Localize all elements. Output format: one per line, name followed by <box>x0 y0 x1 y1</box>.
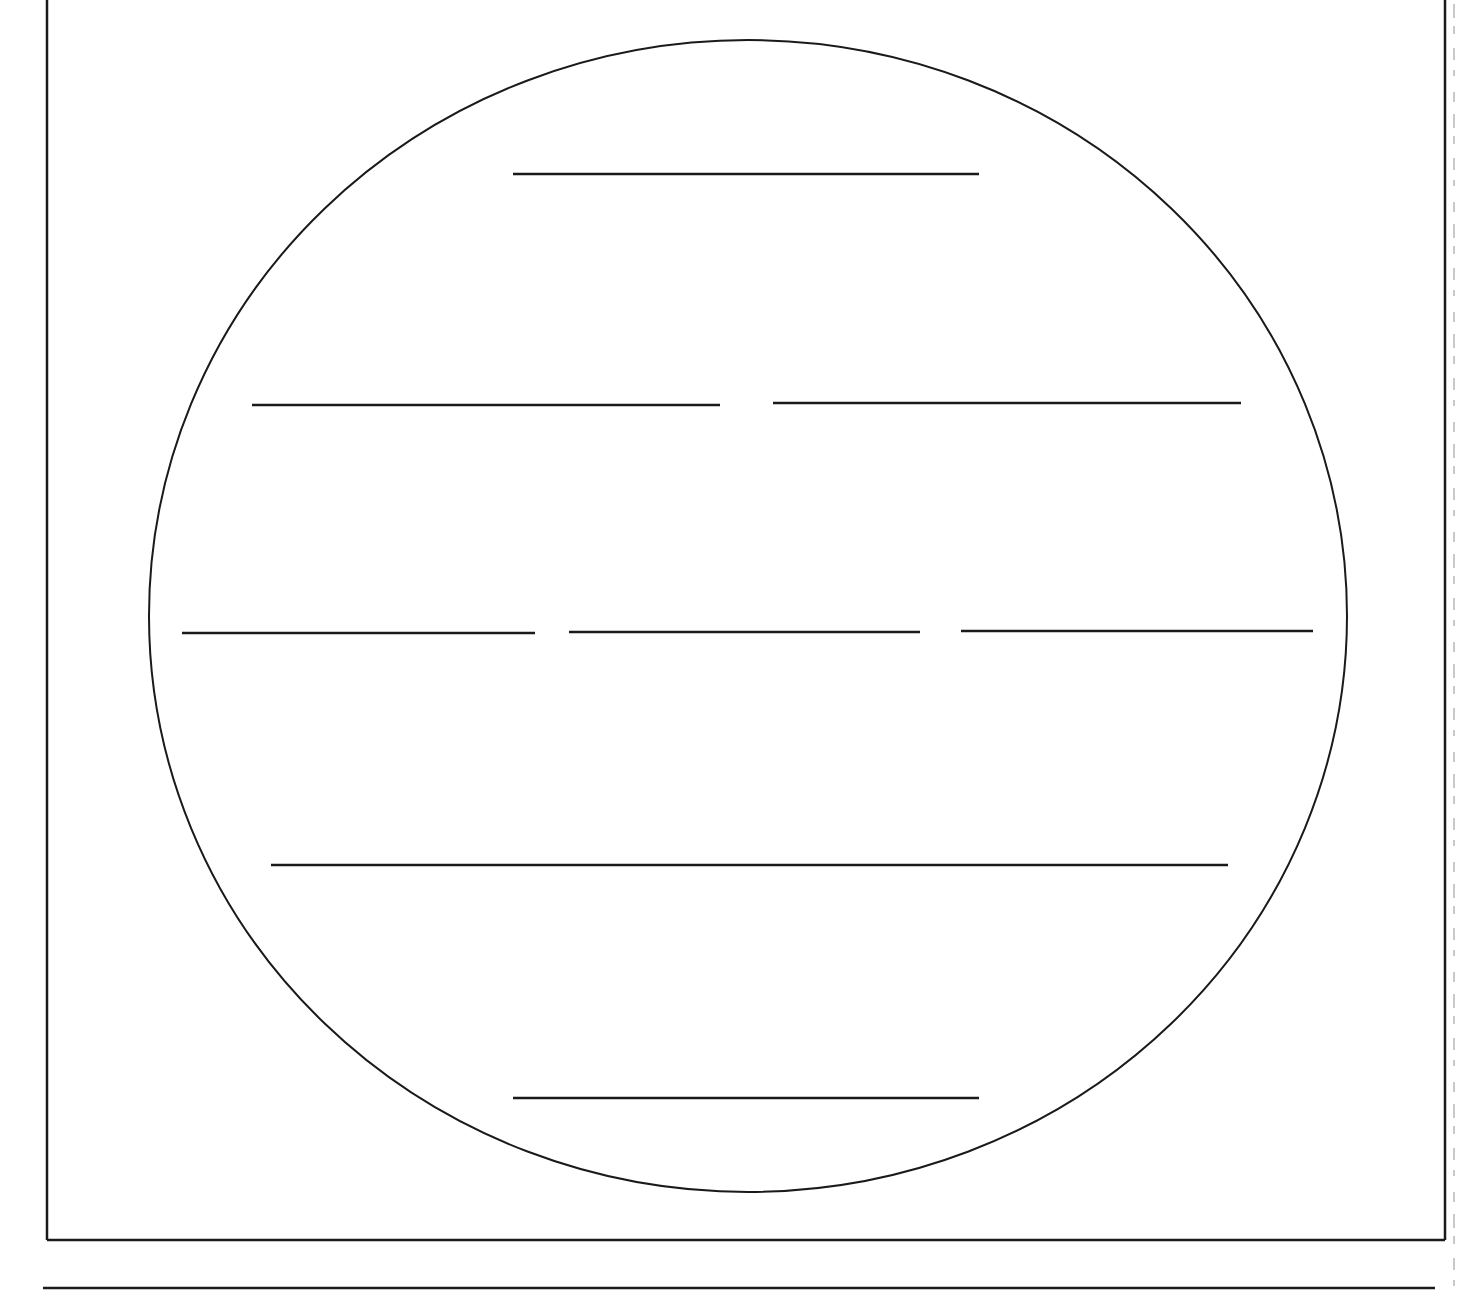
bleed-mark <box>1453 532 1455 542</box>
bleed-mark <box>1453 972 1455 982</box>
bleed-mark <box>1453 554 1455 568</box>
bleed-mark <box>1453 1016 1455 1024</box>
bleed-mark <box>1453 268 1455 280</box>
bleed-mark <box>1453 796 1455 804</box>
bleed-mark <box>1453 1082 1455 1092</box>
bleed-mark <box>1453 598 1455 610</box>
bleed-mark <box>1453 356 1455 364</box>
bleed-mark <box>1453 202 1455 212</box>
bleed-mark <box>1453 246 1455 254</box>
bleed-mark <box>1453 818 1455 830</box>
bleed-mark <box>1453 840 1455 846</box>
worksheet-canvas <box>0 0 1474 1302</box>
bleed-mark <box>1453 4 1455 18</box>
bleed-mark <box>1453 48 1455 60</box>
bleed-mark <box>1453 994 1455 1008</box>
bleed-mark <box>1453 114 1455 128</box>
bleed-mark <box>1453 928 1455 940</box>
bleed-mark <box>1453 400 1455 406</box>
bleed-mark <box>1453 158 1455 170</box>
bleed-mark <box>1453 466 1455 474</box>
bleed-mark <box>1453 136 1455 144</box>
bleed-mark <box>1453 444 1455 458</box>
bleed-mark <box>1453 378 1455 390</box>
bleed-mark <box>1453 686 1455 694</box>
bleed-mark <box>1453 1280 1455 1286</box>
bleed-mark <box>1453 730 1455 736</box>
bleed-mark <box>1453 642 1455 652</box>
bleed-mark <box>1453 1192 1455 1202</box>
bleed-mark <box>1453 752 1455 762</box>
bleed-mark <box>1453 906 1455 914</box>
bleed-mark <box>1453 620 1455 626</box>
bleed-mark <box>1453 70 1455 76</box>
bleed-mark <box>1453 290 1455 296</box>
bleed-mark <box>1453 1148 1455 1160</box>
bleed-mark <box>1453 1126 1455 1134</box>
bleed-mark <box>1453 1104 1455 1118</box>
bleed-mark <box>1453 1214 1455 1228</box>
worksheet-frame <box>47 0 1445 1240</box>
bleed-mark <box>1453 334 1455 348</box>
bleed-mark <box>1453 510 1455 516</box>
bleed-mark <box>1453 312 1455 322</box>
bleed-mark <box>1453 26 1455 34</box>
bleed-mark <box>1453 950 1455 956</box>
bleed-mark <box>1453 708 1455 720</box>
bleed-mark <box>1453 180 1455 186</box>
bleed-mark <box>1453 774 1455 788</box>
circle-map-outline <box>149 40 1347 1192</box>
bleed-mark <box>1453 664 1455 678</box>
bleed-mark <box>1453 488 1455 500</box>
bleed-mark <box>1453 1258 1455 1270</box>
bleed-mark <box>1453 884 1455 898</box>
bleed-mark <box>1453 1038 1455 1050</box>
bleed-mark <box>1453 1236 1455 1244</box>
answer-lines <box>182 174 1313 1098</box>
bleed-mark <box>1453 224 1455 238</box>
bleed-mark <box>1453 422 1455 432</box>
bleed-mark <box>1453 92 1455 102</box>
bleed-mark <box>1453 576 1455 584</box>
bleed-mark <box>1453 862 1455 872</box>
bleed-mark <box>1453 1060 1455 1066</box>
bleed-mark <box>1453 1170 1455 1176</box>
